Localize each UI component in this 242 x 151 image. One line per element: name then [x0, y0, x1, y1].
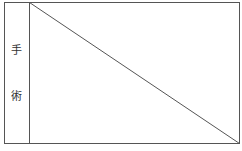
diagram-canvas: [0, 0, 242, 151]
side-label-char-1: 手: [4, 45, 29, 57]
surgery-diagram: 手 術: [0, 0, 242, 151]
diagonal-line: [30, 3, 240, 144]
side-label-char-2: 術: [4, 91, 29, 103]
outer-frame: [5, 3, 240, 144]
